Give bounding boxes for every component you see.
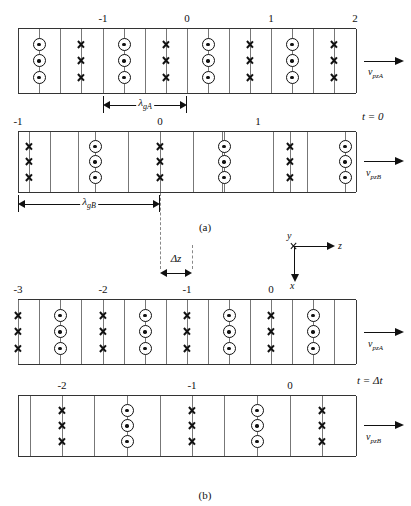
guide-B-tdt-tick-label: -2 xyxy=(57,379,66,391)
guide-B-t0-tick-label: -1 xyxy=(13,115,22,127)
guide-A-t0-boundary xyxy=(229,29,230,93)
caption-panel-a: (a) xyxy=(199,221,211,233)
guide-B-tdt-boundary xyxy=(160,396,161,456)
guide-B-t0-boundary xyxy=(273,132,274,192)
guide-B-t0-velocity-label: vpzB xyxy=(366,167,381,181)
alignment-dashed-guide xyxy=(160,193,161,269)
guide-B-t0-symbol-axis xyxy=(95,132,96,192)
measure-arrow-left xyxy=(18,200,25,208)
guide-B-t0-symbol-axis xyxy=(29,132,30,192)
z-axis-label: z xyxy=(338,240,342,251)
guide-A-t0-boundary xyxy=(18,29,19,93)
guide-B-tdt-symbol-axis xyxy=(127,396,128,456)
guide-A-tdt-boundary xyxy=(39,300,40,364)
guide-B-t0-symbol-axis xyxy=(224,132,225,192)
guide-A-tdt-boundary xyxy=(334,300,335,364)
guide-B-tdt-boundary xyxy=(224,396,225,456)
measure-arrow-left xyxy=(103,101,110,109)
guide-A-tdt-boundary xyxy=(166,300,167,364)
guide-A-tdt-tick-label: 0 xyxy=(268,283,274,295)
guide-A-tdt-boundary xyxy=(124,300,125,364)
guide-A-t0-symbol-axis xyxy=(166,29,167,93)
z-axis-arrowhead-icon xyxy=(327,242,335,250)
arrow-shaft xyxy=(364,332,396,333)
guide-A-tdt-symbol-axis xyxy=(18,300,19,364)
guide-A-tdt-velocity-label: vpzA xyxy=(368,338,383,352)
guide-A-t0-boundary xyxy=(103,29,104,93)
guide-B-t0-boundary xyxy=(78,132,79,192)
guide-B-tdt-boundary xyxy=(18,396,19,456)
waveguide-phase-velocity-figure: -1012vpzAλgA-101vpzBt = 0λgB-3-2-10vpzA-… xyxy=(0,0,411,506)
arrow-head xyxy=(395,157,404,165)
guide-A-tdt-symbol-axis xyxy=(313,300,314,364)
arrow-shaft xyxy=(364,425,396,426)
guide-A-tdt-velocity-arrow-icon xyxy=(364,327,404,337)
y-axis-into-page-icon xyxy=(289,241,299,251)
guide-A-t0-wavelength-label: λgA xyxy=(136,96,154,111)
velocity-subscript: pzA xyxy=(372,72,383,80)
guide-B-tdt-symbol-axis xyxy=(62,396,63,456)
measure-tick-left xyxy=(103,96,104,113)
measure-tick-left xyxy=(18,195,19,212)
guide-A-t0-symbol-axis xyxy=(81,29,82,93)
guide-A-t0-tick-label: 2 xyxy=(352,12,358,24)
guide-A-t0-symbol-axis xyxy=(208,29,209,93)
guide-B-t0-time-label: t = 0 xyxy=(362,110,383,122)
measure-shaft xyxy=(166,273,186,274)
guide-B-t0-symbol-axis xyxy=(160,132,161,192)
guide-B-t0-velocity-arrow-icon xyxy=(364,156,404,166)
guide-B-tdt-boundary xyxy=(290,396,291,456)
guide-A-tdt-symbol-axis xyxy=(229,300,230,364)
guide-B-t0-tick-label: 1 xyxy=(255,115,261,127)
guide-A-tdt-symbol-axis xyxy=(187,300,188,364)
measure-arrow-left xyxy=(160,269,167,277)
guide-A-tdt-strip xyxy=(18,299,356,365)
guide-A-tdt-boundary xyxy=(356,300,357,364)
arrow-head xyxy=(395,57,404,65)
guide-A-tdt-tick-label: -3 xyxy=(13,283,22,295)
guide-B-t0-boundary xyxy=(307,132,308,192)
delta-z-measure xyxy=(160,268,192,278)
guide-A-t0-symbol-axis xyxy=(39,29,40,93)
guide-B-t0-symbol-axis xyxy=(345,132,346,192)
guide-B-t0-boundary xyxy=(50,132,51,192)
guide-A-tdt-symbol-axis xyxy=(60,300,61,364)
guide-A-t0-boundary xyxy=(271,29,272,93)
guide-A-tdt-boundary xyxy=(208,300,209,364)
guide-B-tdt-tick-label: 0 xyxy=(287,379,293,391)
guide-A-tdt-tick-label: -2 xyxy=(98,283,107,295)
guide-A-t0-strip xyxy=(18,28,356,94)
guide-A-tdt-boundary xyxy=(81,300,82,364)
x-axis-line xyxy=(294,247,295,275)
guide-B-t0-tick-label: 0 xyxy=(157,115,163,127)
guide-A-t0-velocity-label: vpzA xyxy=(368,66,383,80)
x-axis-label: x xyxy=(290,280,294,291)
guide-B-tdt-tick-label: -1 xyxy=(187,379,196,391)
guide-B-t0-boundary xyxy=(222,132,223,192)
measure-arrow-right xyxy=(185,269,192,277)
guide-B-tdt-boundary xyxy=(30,396,31,456)
velocity-subscript: pzA xyxy=(372,344,383,352)
guide-B-t0-symbol-axis xyxy=(290,132,291,192)
guide-A-tdt-symbol-axis xyxy=(145,300,146,364)
guide-A-tdt-symbol-axis xyxy=(103,300,104,364)
guide-B-tdt-symbol-axis xyxy=(257,396,258,456)
guide-A-tdt-boundary xyxy=(292,300,293,364)
velocity-subscript: pzB xyxy=(370,437,381,445)
guide-B-t0-boundary xyxy=(128,132,129,192)
guide-A-t0-symbol-axis xyxy=(292,29,293,93)
guide-B-tdt-symbol-axis xyxy=(192,396,193,456)
guide-B-t0-boundary xyxy=(18,132,19,192)
guide-A-t0-boundary xyxy=(356,29,357,93)
guide-A-t0-boundary xyxy=(187,29,188,93)
coordinate-axes-triad: yzx xyxy=(285,230,355,290)
guide-B-tdt-time-label: t = Δt xyxy=(357,374,383,386)
guide-B-tdt-symbol-axis xyxy=(322,396,323,456)
wavelength-subscript: gB xyxy=(87,201,96,210)
arrow-head xyxy=(395,328,404,336)
guide-B-tdt-velocity-label: vpzB xyxy=(366,431,381,445)
alignment-dashed-guide xyxy=(192,245,193,269)
guide-B-t0-wavelength-label: λgB xyxy=(80,195,98,210)
guide-B-tdt-boundary xyxy=(356,396,357,456)
guide-A-t0-tick-label: 1 xyxy=(268,12,274,24)
